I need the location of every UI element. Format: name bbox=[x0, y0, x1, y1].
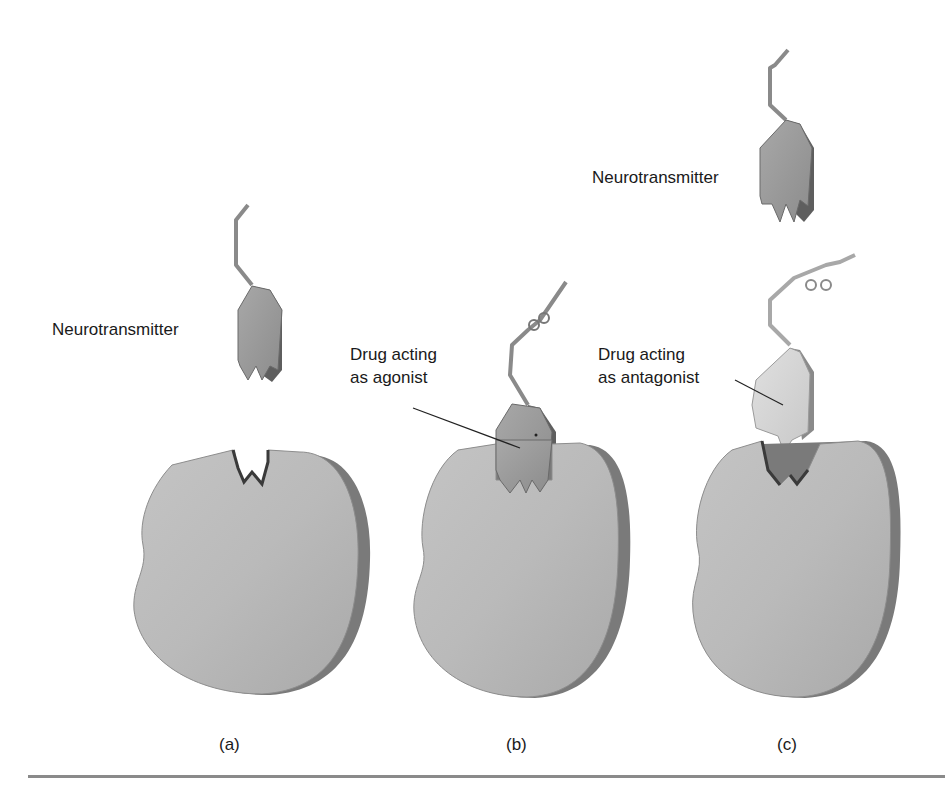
bottom-divider-rule bbox=[28, 775, 945, 778]
panel-c-neurotransmitter-label: Neurotransmitter bbox=[592, 168, 719, 188]
panel-b-drug-label-line1: Drug acting bbox=[350, 345, 437, 365]
panel-b-drug-label-line2: as agonist bbox=[350, 368, 428, 388]
panel-a-caption: (a) bbox=[219, 735, 240, 755]
panel-c-caption: (c) bbox=[777, 735, 797, 755]
panel-a-neurotransmitter bbox=[236, 205, 282, 382]
panel-c-drug-label-line1: Drug acting bbox=[598, 345, 685, 365]
panel-c-antagonist-drug bbox=[735, 255, 855, 452]
panel-c-neurotransmitter bbox=[760, 50, 814, 222]
panel-b-caption: (b) bbox=[506, 735, 527, 755]
diagram-artwork bbox=[0, 0, 945, 788]
panel-c-drug-label-line2: as antagonist bbox=[598, 368, 699, 388]
panel-b-receptor bbox=[413, 408, 630, 698]
panel-c-receptor bbox=[693, 441, 901, 698]
panel-a-receptor bbox=[134, 450, 370, 695]
panel-a-neurotransmitter-label: Neurotransmitter bbox=[52, 320, 179, 340]
